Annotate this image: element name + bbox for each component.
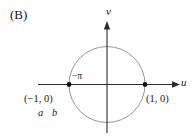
v-axis-label: v [106, 6, 111, 17]
ab-annotation: a b [38, 108, 60, 119]
neg-pi-annotation: −π [72, 72, 82, 82]
point-marker-right [143, 82, 148, 87]
figure-panel-b: (B) v u −π (−1, 0) (1, 0) a b [0, 0, 194, 139]
v-axis-arrow-icon [104, 21, 110, 30]
u-axis-arrow-icon [172, 81, 180, 87]
unit-circle-plot [0, 0, 194, 139]
point-right-label: (1, 0) [146, 94, 169, 105]
panel-label: (B) [10, 8, 27, 21]
u-axis-label: u [181, 77, 187, 88]
point-marker-left [67, 82, 72, 87]
point-left-label: (−1, 0) [24, 94, 53, 105]
